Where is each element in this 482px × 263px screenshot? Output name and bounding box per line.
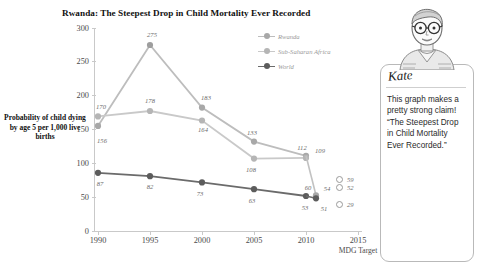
point-label: 164 [198,126,208,133]
y-tick-label: 250 [77,57,89,66]
point-label: 82 [147,183,154,190]
y-tick-label: 200 [77,91,89,100]
data-point [199,117,205,123]
point-label: 170 [96,103,106,110]
x-tick-label: 1990 [90,236,107,245]
y-tick-label: 0 [85,227,89,236]
data-point [147,108,153,114]
open-circle-icon [336,176,343,183]
mdg-target-value: 59 [347,176,354,183]
point-label: 183 [201,94,211,101]
avatar [388,4,466,70]
open-circle-icon [336,184,343,191]
data-point [199,179,205,185]
point-label: 73 [197,190,204,197]
page-title: Rwanda: The Steepest Drop in Child Morta… [62,8,362,18]
annotation-author: Kate [387,67,413,85]
mdg-target-row: 52 [336,183,354,191]
point-label: 133 [247,129,257,136]
data-point [147,173,153,179]
open-circle-icon [336,201,343,208]
y-tick-label: 300 [77,24,89,33]
point-label: 178 [145,97,155,104]
point-label: 156 [97,137,107,144]
x-tick-label: 2015 [350,236,367,245]
data-point [95,113,101,119]
data-point [95,123,101,129]
y-tick-label: 150 [77,125,89,134]
y-tick-label: 100 [77,159,89,168]
mdg-target-value: 29 [347,201,354,208]
x-tick-label: 1995 [142,236,159,245]
point-label-extra: 54 [324,185,331,192]
chart-screenshot: Rwanda: The Steepest Drop in Child Morta… [0,0,482,263]
mdg-target-row: 29 [336,200,354,208]
mdg-target-value: 52 [347,184,354,191]
point-label: 109 [315,147,325,154]
point-label: 53 [302,204,309,211]
data-point [313,195,319,201]
y-tick-label: 50 [81,193,89,202]
point-label: 112 [297,144,306,151]
x-tick-label: 2005 [246,236,263,245]
mdg-target-row: 59 [336,175,354,183]
point-label-extra: 51 [321,205,328,212]
plot-area: 0 50 100 150 200 250 300 1990 1995 2000 … [94,28,362,232]
x-tick-label: 2000 [194,236,211,245]
mdg-target-markers: 59 52 29 [336,175,354,208]
data-point [147,42,153,48]
point-label: 275 [147,31,157,38]
data-point [251,139,257,145]
point-label: 87 [97,180,104,187]
x-tick-label: 2010 [298,236,315,245]
point-label-extra: 60 [305,184,312,191]
point-label: 108 [246,166,256,173]
divider [386,87,466,88]
y-axis-title: Probability of child dying by age 5 per … [2,113,88,142]
data-point [199,105,205,111]
data-point [95,170,101,176]
annotation-text: This graph makes a pretty strong claim! … [387,94,465,151]
data-point [251,156,257,162]
series-lines [94,28,362,232]
annotation-panel: Kate This graph makes a pretty strong cl… [372,2,480,260]
data-point [251,186,257,192]
point-label: 63 [249,197,256,204]
